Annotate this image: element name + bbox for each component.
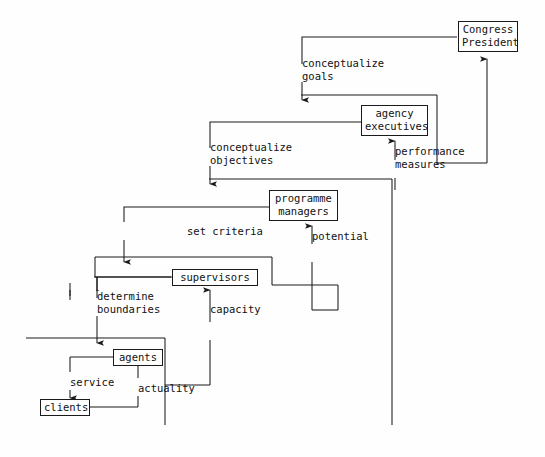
node-agency-executives-line-1: agency — [365, 107, 424, 120]
node-clients-line-1: clients — [44, 401, 86, 414]
diagram-canvas: Congress President agency executives pro… — [0, 0, 545, 457]
node-supervisors-line-1: supervisors — [176, 271, 254, 284]
node-clients[interactable]: clients — [40, 399, 90, 416]
diagram-connectors — [0, 0, 545, 457]
node-congress-president-line-2: President — [462, 36, 514, 49]
node-agents-line-1: agents — [117, 351, 159, 364]
node-congress-president-line-1: Congress — [462, 23, 514, 36]
node-supervisors[interactable]: supervisors — [172, 269, 258, 286]
node-programme-managers[interactable]: programme managers — [269, 190, 338, 221]
node-programme-managers-line-1: programme — [273, 192, 334, 205]
node-agency-executives[interactable]: agency executives — [361, 105, 428, 136]
node-congress-president[interactable]: Congress President — [458, 21, 518, 52]
node-programme-managers-line-2: managers — [273, 205, 334, 218]
node-agency-executives-line-2: executives — [365, 120, 424, 133]
node-agents[interactable]: agents — [113, 349, 163, 366]
wire-criteria-in — [124, 207, 269, 222]
